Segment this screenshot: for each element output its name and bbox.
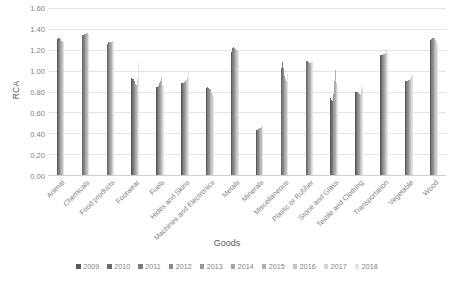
legend-swatch-icon [138, 264, 143, 269]
y-tick-label: 1.60 [30, 4, 45, 13]
legend-swatch-icon [76, 264, 81, 269]
legend-label: 2013 [207, 262, 223, 271]
legend-label: 2016 [300, 262, 316, 271]
legend-item[interactable]: 2012 [169, 262, 192, 271]
legend-label: 2014 [238, 262, 254, 271]
legend-swatch-icon [200, 264, 205, 269]
legend-swatch-icon [107, 264, 112, 269]
bar [337, 88, 338, 175]
bar [238, 50, 239, 175]
bar-group [197, 8, 222, 175]
bar-group [347, 8, 372, 175]
y-tick-label: 0.80 [30, 88, 45, 97]
y-tick-label: 0.60 [30, 109, 45, 118]
legend-swatch-icon [231, 264, 236, 269]
legend-item[interactable]: 2013 [200, 262, 223, 271]
bar-group [98, 8, 123, 175]
legend-label: 2009 [83, 262, 99, 271]
bar-group [421, 8, 446, 175]
plot-area [48, 8, 446, 176]
bar [362, 86, 363, 175]
x-axis-title: Goods [0, 238, 454, 248]
legend-label: 2012 [176, 262, 192, 271]
y-axis-title: RCA [8, 0, 24, 180]
bar-group [247, 8, 272, 175]
x-tick-slot: Footwear [123, 176, 148, 236]
bar-group [123, 8, 148, 175]
legend-swatch-icon [355, 264, 360, 269]
legend-item[interactable]: 2017 [324, 262, 347, 271]
y-axis-title-text: RCA [11, 81, 21, 100]
x-tick-slot: Food products [98, 176, 123, 236]
x-tick-label: Fuels [148, 178, 167, 197]
legend-item[interactable]: 2009 [76, 262, 99, 271]
bar [387, 53, 388, 175]
x-tick-label: Wood [420, 178, 440, 198]
bar [113, 41, 114, 175]
plot-wrapper: 0.000.200.400.600.801.001.201.401.60 [24, 8, 446, 176]
bar [262, 125, 263, 175]
legend-item[interactable]: 2016 [293, 262, 316, 271]
legend-swatch-icon [169, 264, 174, 269]
rca-bar-chart: RCA 0.000.200.400.600.801.001.201.401.60… [0, 0, 454, 285]
y-tick-label: 0.20 [30, 151, 45, 160]
y-tick-label: 1.00 [30, 67, 45, 76]
bar-group [73, 8, 98, 175]
bar-group [297, 8, 322, 175]
x-tick-label: Animal [45, 178, 67, 200]
y-tick-label: 0.00 [30, 172, 45, 181]
bar-group [371, 8, 396, 175]
bar-group [222, 8, 247, 175]
bar [213, 96, 214, 175]
legend-label: 2010 [114, 262, 130, 271]
bar [138, 63, 139, 175]
bar [63, 42, 64, 175]
legend-item[interactable]: 2010 [107, 262, 130, 271]
legend-swatch-icon [293, 264, 298, 269]
legend-label: 2018 [362, 262, 378, 271]
y-tick-label: 0.40 [30, 130, 45, 139]
legend-swatch-icon [262, 264, 267, 269]
legend-label: 2015 [269, 262, 285, 271]
x-tick-label: Metals [220, 178, 241, 199]
legend-label: 2017 [331, 262, 347, 271]
bar-group [148, 8, 173, 175]
legend-item[interactable]: 2011 [138, 262, 160, 271]
bar [163, 85, 164, 175]
bar-group [48, 8, 73, 175]
bar [437, 44, 438, 176]
bar-group [396, 8, 421, 175]
y-axis-tick-labels: 0.000.200.400.600.801.001.201.401.60 [24, 8, 48, 176]
y-tick-label: 1.20 [30, 46, 45, 55]
x-tick-slot: Metals [222, 176, 247, 236]
x-axis-category-labels: AnimalChemicalsFood productsFootwearFuel… [48, 176, 446, 236]
x-tick-slot: Machines and Electronics [197, 176, 222, 236]
legend-item[interactable]: 2014 [231, 262, 254, 271]
bar [287, 75, 288, 175]
x-tick-slot: Vegetable [396, 176, 421, 236]
bar [412, 75, 413, 175]
bar-group [322, 8, 347, 175]
bars-layer [48, 8, 446, 175]
bar-group [172, 8, 197, 175]
legend: 2009201020112012201320142015201620172018 [0, 262, 454, 271]
bar-group [272, 8, 297, 175]
x-tick-slot: Wood [421, 176, 446, 236]
x-axis-title-text: Goods [214, 238, 241, 248]
legend-swatch-icon [324, 264, 329, 269]
bar [188, 72, 189, 175]
legend-item[interactable]: 2015 [262, 262, 285, 271]
bar [312, 62, 313, 175]
legend-item[interactable]: 2018 [355, 262, 378, 271]
bar [88, 34, 89, 175]
legend-label: 2011 [145, 262, 160, 271]
y-tick-label: 1.40 [30, 25, 45, 34]
